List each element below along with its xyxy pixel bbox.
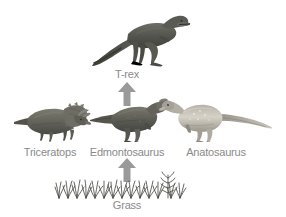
edmontosaurus-label: Edmontosaurus (90, 146, 164, 158)
grass-icon (55, 172, 195, 198)
edmontosaurus-icon (88, 98, 172, 142)
anatosaurus-icon (162, 98, 274, 142)
anatosaurus-label: Anatosaurus (186, 146, 246, 158)
trex-icon (88, 8, 194, 68)
triceratops-figure (8, 100, 92, 142)
grass-label: Grass (113, 199, 141, 211)
edmontosaurus-figure (88, 98, 172, 142)
anatosaurus-figure (162, 98, 274, 142)
trex-figure (88, 8, 194, 68)
trex-label: T-rex (115, 68, 139, 80)
triceratops-label: Triceratops (24, 146, 76, 158)
triceratops-icon (8, 100, 92, 142)
grass-figure (55, 172, 195, 198)
food-chain-diagram: T-rex (0, 0, 286, 217)
